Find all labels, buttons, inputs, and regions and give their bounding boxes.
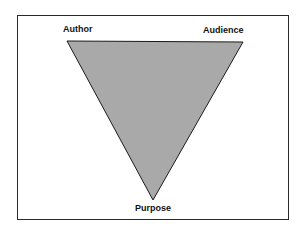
triangle-diagram	[0, 0, 305, 232]
audience-label: Audience	[203, 25, 244, 35]
purpose-label: Purpose	[135, 203, 171, 213]
rhetorical-triangle	[67, 41, 243, 200]
author-label: Author	[63, 24, 93, 34]
